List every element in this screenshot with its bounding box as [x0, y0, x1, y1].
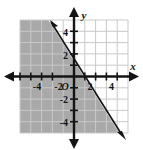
x-tick-label-4: 4	[109, 81, 114, 92]
y-axis-label: y	[80, 9, 87, 21]
x-axis-arrow-right	[129, 72, 139, 82]
origin-label: O	[61, 81, 68, 92]
graph-figure: -4 -2 2 4 4 2 -2 -4 O x y	[0, 0, 143, 150]
coordinate-plane: -4 -2 2 4 4 2 -2 -4 O x y	[0, 0, 143, 150]
y-tick-label--4: -4	[60, 117, 68, 128]
y-axis-arrow-up	[69, 7, 79, 17]
y-tick-label--2: -2	[60, 94, 68, 105]
x-axis-arrow-left	[4, 72, 14, 82]
x-axis-label: x	[129, 60, 136, 72]
x-tick-label-2: 2	[88, 81, 93, 92]
y-axis-arrow-down	[69, 139, 79, 149]
y-tick-label-4: 4	[63, 27, 68, 38]
x-tick-label--4: -4	[33, 81, 41, 92]
y-tick-label-2: 2	[63, 50, 68, 61]
